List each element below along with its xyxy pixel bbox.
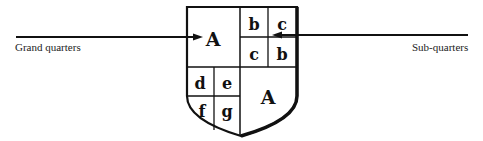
quarter-2a-letter: b bbox=[248, 15, 259, 34]
quarter-3c-letter: f bbox=[199, 102, 207, 121]
quarter-2d-letter: b bbox=[276, 45, 287, 64]
sub-quarters-arrow bbox=[272, 32, 468, 39]
quarter-2b-letter: c bbox=[277, 15, 287, 34]
quarter-2c-letter: c bbox=[249, 45, 259, 64]
grand-quarters-arrow bbox=[16, 34, 203, 41]
quarter-1-letter: A bbox=[205, 28, 221, 50]
shield-diagram: A b c c b d e f g A bbox=[0, 0, 483, 141]
quarter-3a-letter: d bbox=[194, 74, 205, 93]
quarter-3d-letter: g bbox=[221, 102, 232, 121]
quarter-4-letter: A bbox=[260, 86, 276, 108]
quarter-3b-letter: e bbox=[222, 74, 232, 93]
